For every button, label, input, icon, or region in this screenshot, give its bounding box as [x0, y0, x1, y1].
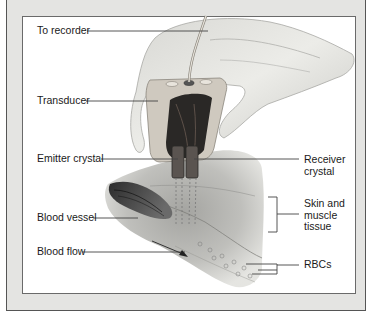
label-blood-vessel: Blood vessel: [37, 212, 97, 224]
label-line: Skin and: [304, 198, 345, 210]
label-line: RBCs: [304, 259, 331, 271]
label-blood-flow: Blood flow: [37, 246, 85, 258]
label-transducer: Transducer: [37, 95, 90, 107]
emitter-crystal: [172, 146, 184, 178]
label-line: crystal: [304, 166, 345, 178]
label-line: Receiver: [304, 154, 345, 166]
label-line: tissue: [304, 221, 345, 233]
receiver-crystal: [186, 146, 198, 178]
label-rbcs: RBCs: [304, 259, 331, 271]
label-receiver-crystal: Receiver crystal: [304, 154, 345, 177]
label-to-recorder: To recorder: [37, 25, 90, 37]
label-emitter-crystal: Emitter crystal: [37, 153, 104, 165]
label-skin-muscle-tissue: Skin and muscle tissue: [304, 198, 345, 233]
bracket-skin: [268, 197, 277, 232]
